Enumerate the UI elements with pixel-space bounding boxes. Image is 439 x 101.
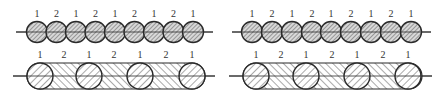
strand-label: 2 — [389, 8, 394, 19]
strand-label: 1 — [138, 49, 143, 60]
strand-label: 2 — [310, 8, 315, 19]
diagram-canvas: 12121212112121212112121211212121 — [0, 0, 439, 101]
strand-label: 2 — [132, 8, 137, 19]
strand-label: 1 — [152, 8, 157, 19]
strand-label: 1 — [409, 8, 414, 19]
strand-label: 2 — [164, 49, 169, 60]
panel-bottom-right: 1212121 — [229, 49, 432, 89]
strand-label: 1 — [355, 49, 360, 60]
strand-label: 2 — [381, 49, 386, 60]
strand-label: 1 — [304, 49, 309, 60]
strand-label: 2 — [112, 49, 117, 60]
strand-label: 1 — [190, 49, 195, 60]
strand-label: 1 — [329, 8, 334, 19]
strand-label: 2 — [330, 49, 335, 60]
strand-label: 1 — [191, 8, 196, 19]
strand-label: 2 — [62, 49, 67, 60]
strand-label: 1 — [250, 8, 255, 19]
panel-top-left: 121212121 — [16, 8, 213, 43]
strand-label: 2 — [93, 8, 98, 19]
strand-label: 1 — [35, 8, 40, 19]
strand-label: 1 — [406, 49, 411, 60]
strand-label: 1 — [38, 49, 43, 60]
diagram-layer: 12121212112121212112121211212121 — [13, 8, 432, 89]
strand-label: 2 — [279, 49, 284, 60]
strand-label: 1 — [113, 8, 118, 19]
strand-label: 2 — [270, 8, 275, 19]
strand-label: 1 — [74, 8, 79, 19]
panel-top-right: 121212121 — [232, 8, 431, 43]
strand-label: 1 — [87, 49, 92, 60]
strand-label: 1 — [254, 49, 259, 60]
strand-label: 2 — [171, 8, 176, 19]
strand-label: 1 — [290, 8, 295, 19]
strand-label: 2 — [349, 8, 354, 19]
strand-label: 1 — [369, 8, 374, 19]
panel-bottom-left: 1212121 — [13, 49, 215, 89]
strand-label: 2 — [54, 8, 59, 19]
